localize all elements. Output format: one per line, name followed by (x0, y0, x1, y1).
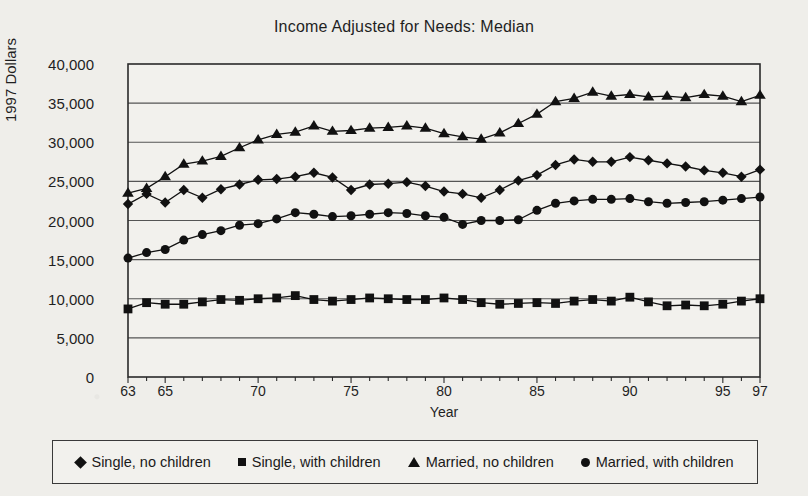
data-point-square (756, 294, 765, 303)
data-point-square (347, 295, 356, 304)
data-point-circle (607, 195, 616, 204)
data-point-circle (700, 197, 709, 206)
data-point-circle (235, 221, 244, 230)
data-point-circle (663, 199, 672, 208)
data-point-square (700, 301, 709, 310)
data-point-circle (384, 208, 393, 217)
data-point-circle (495, 216, 504, 225)
data-point-square (644, 297, 653, 306)
data-point-square (235, 296, 244, 305)
data-point-circle (681, 198, 690, 207)
data-point-circle (440, 213, 449, 222)
data-point-square (161, 300, 170, 309)
data-point-circle (179, 236, 188, 245)
legend-item[interactable]: Married, no children (408, 454, 554, 470)
data-point-square (551, 299, 560, 308)
data-point-square (217, 295, 226, 304)
legend-label: Single, no children (91, 454, 210, 470)
data-point-square (570, 297, 579, 306)
data-point-square (533, 298, 542, 307)
data-point-square (625, 293, 634, 302)
legend-label: Married, no children (426, 454, 554, 470)
legend-item[interactable]: Single, with children (238, 454, 381, 470)
square-marker-icon (238, 458, 246, 466)
plot-canvas (0, 0, 808, 496)
data-point-circle (756, 193, 765, 202)
data-point-circle (309, 210, 318, 219)
data-point-circle (328, 212, 337, 221)
data-point-square (718, 300, 727, 309)
data-point-circle (254, 219, 263, 228)
data-point-circle (142, 248, 151, 257)
data-point-circle (458, 220, 467, 229)
data-point-circle (551, 199, 560, 208)
data-point-square (440, 294, 449, 303)
legend-item[interactable]: Single, no children (76, 454, 210, 470)
data-point-square (291, 291, 300, 300)
data-point-circle (216, 226, 225, 235)
data-point-circle (625, 194, 634, 203)
data-point-square (272, 294, 281, 303)
data-point-square (142, 298, 151, 307)
chart-page: Income Adjusted for Needs: Median 1997 D… (0, 0, 808, 496)
data-point-circle (477, 216, 486, 225)
data-point-square (737, 297, 746, 306)
data-point-circle (718, 196, 727, 205)
data-point-square (124, 305, 133, 314)
circle-marker-icon (581, 458, 590, 467)
data-point-circle (588, 195, 597, 204)
data-point-circle (532, 206, 541, 215)
data-point-square (365, 294, 374, 303)
data-point-circle (291, 208, 300, 217)
data-point-square (179, 300, 188, 309)
data-point-square (421, 295, 430, 304)
diamond-marker-icon (75, 456, 88, 469)
data-point-circle (421, 211, 430, 220)
data-point-square (588, 295, 597, 304)
data-point-square (477, 298, 486, 307)
data-point-square (402, 295, 411, 304)
data-point-square (328, 297, 337, 306)
legend-item[interactable]: Married, with children (581, 454, 734, 470)
data-point-square (495, 300, 504, 309)
legend-label: Married, with children (596, 454, 734, 470)
data-point-square (458, 295, 467, 304)
data-point-square (514, 299, 523, 308)
data-point-square (663, 301, 672, 310)
data-point-circle (161, 245, 170, 254)
data-point-circle (514, 215, 523, 224)
data-point-circle (347, 211, 356, 220)
data-point-square (254, 294, 263, 303)
data-point-circle (365, 210, 374, 219)
data-point-circle (124, 254, 133, 263)
chart-legend: Single, no childrenSingle, with children… (52, 440, 758, 484)
data-point-circle (402, 209, 411, 218)
data-point-square (384, 294, 393, 303)
data-point-circle (570, 196, 579, 205)
data-point-square (607, 297, 616, 306)
data-point-square (309, 295, 318, 304)
triangle-marker-icon (408, 457, 420, 467)
data-point-circle (644, 197, 653, 206)
data-point-circle (272, 214, 281, 223)
data-point-square (198, 297, 207, 306)
data-point-circle (198, 230, 207, 239)
data-point-circle (737, 194, 746, 203)
legend-label: Single, with children (252, 454, 381, 470)
data-point-square (681, 301, 690, 310)
